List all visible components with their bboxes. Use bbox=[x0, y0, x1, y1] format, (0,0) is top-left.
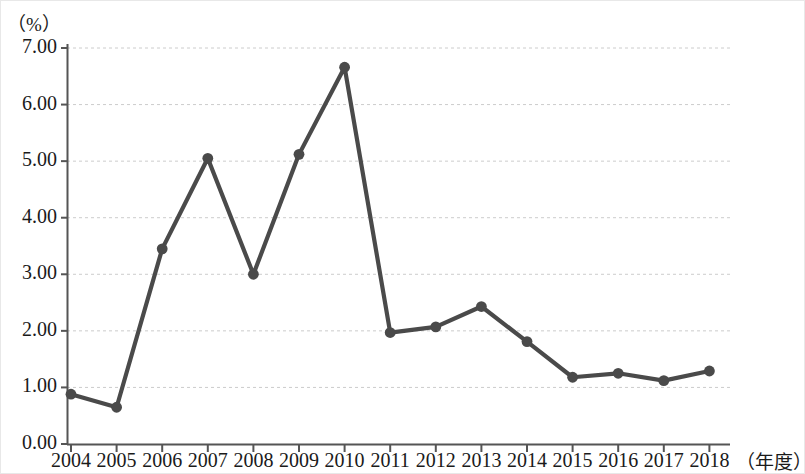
chart-figure: （%） （年度） 0.001.002.003.004.005.006.007.0… bbox=[0, 0, 805, 474]
x-tick-label: 2018 bbox=[681, 449, 737, 472]
y-tick-label: 3.00 bbox=[1, 261, 57, 284]
line-chart-plot bbox=[1, 1, 805, 474]
data-point-markers-group bbox=[66, 62, 715, 413]
y-tick-label: 1.00 bbox=[1, 374, 57, 397]
data-point-marker bbox=[202, 153, 213, 164]
data-point-marker bbox=[658, 375, 669, 386]
data-point-marker bbox=[248, 269, 259, 280]
data-point-marker bbox=[111, 402, 122, 413]
gridlines-group bbox=[67, 48, 730, 387]
data-point-marker bbox=[157, 243, 168, 254]
data-point-marker bbox=[476, 301, 487, 312]
y-tick-label: 7.00 bbox=[1, 35, 57, 58]
data-point-marker bbox=[704, 366, 715, 377]
data-point-marker bbox=[339, 62, 350, 73]
data-point-marker bbox=[522, 336, 533, 347]
y-tick-label: 6.00 bbox=[1, 92, 57, 115]
data-series-line bbox=[71, 67, 709, 407]
y-tick-label: 5.00 bbox=[1, 148, 57, 171]
data-point-marker bbox=[66, 389, 77, 400]
data-point-marker bbox=[385, 327, 396, 338]
data-point-marker bbox=[613, 368, 624, 379]
data-point-marker bbox=[567, 372, 578, 383]
data-point-marker bbox=[430, 322, 441, 333]
y-tick-label: 2.00 bbox=[1, 318, 57, 341]
y-tick-label: 4.00 bbox=[1, 205, 57, 228]
data-point-marker bbox=[294, 149, 305, 160]
